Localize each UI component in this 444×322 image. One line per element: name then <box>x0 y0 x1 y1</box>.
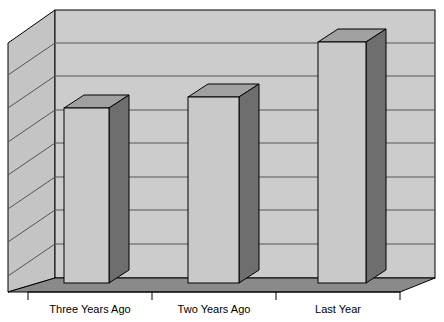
left-wall <box>8 10 55 292</box>
x-axis-label-two-years-ago: Two Years Ago <box>178 303 251 315</box>
bar-side-face <box>109 95 129 283</box>
bar-front-face <box>318 42 366 283</box>
bar-side-face <box>239 84 259 283</box>
x-axis-label-last-year: Last Year <box>315 303 361 315</box>
bar-three-years-ago[interactable] <box>64 95 129 283</box>
bar-side-face <box>366 29 386 283</box>
bar-front-face <box>188 97 239 283</box>
x-axis-label-three-years-ago: Three Years Ago <box>49 303 130 315</box>
chart-container: Three Years Ago Two Years Ago Last Year <box>0 0 444 322</box>
bar-chart-3d: Three Years Ago Two Years Ago Last Year <box>0 0 444 322</box>
bar-front-face <box>64 108 109 283</box>
bar-two-years-ago[interactable] <box>188 84 259 283</box>
x-axis <box>28 292 400 300</box>
bar-last-year[interactable] <box>318 29 386 283</box>
